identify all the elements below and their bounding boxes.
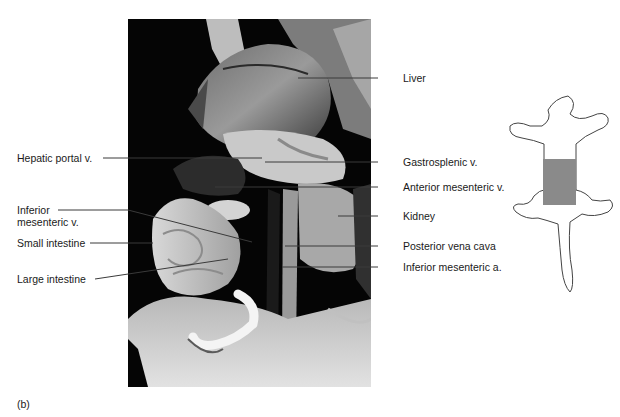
- label-large-intestine: Large intestine: [17, 273, 86, 285]
- label-anterior-mesenteric-v: Anterior mesenteric v.: [403, 181, 504, 193]
- label-kidney: Kidney: [403, 210, 435, 222]
- label-inferior-mesenteric-v-line1: Inferior: [17, 204, 50, 216]
- label-posterior-vena-cava: Posterior vena cava: [403, 240, 496, 252]
- photo-artwork: [128, 19, 371, 387]
- label-liver: Liver: [403, 72, 426, 84]
- label-gastrosplenic-v: Gastrosplenic v.: [403, 156, 478, 168]
- label-inferior-mesenteric-v-line2: mesenteric v.: [17, 216, 79, 228]
- figure-caption: (b): [17, 398, 30, 410]
- label-hepatic-portal-v: Hepatic portal v.: [17, 152, 92, 164]
- label-inferior-mesenteric-a: Inferior mesenteric a.: [403, 261, 502, 273]
- rat-silhouette-icon: [500, 90, 620, 310]
- label-small-intestine: Small intestine: [17, 237, 85, 249]
- abdomen-region-highlight: [543, 159, 576, 205]
- dissection-photo: [128, 19, 371, 387]
